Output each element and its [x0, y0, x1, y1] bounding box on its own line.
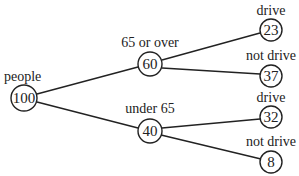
node-value-37: 37	[264, 68, 280, 84]
node-under-65-drive: drive 32	[257, 90, 286, 128]
node-label-under-65: under 65	[125, 101, 174, 116]
edge-65-or-over-not-drive	[162, 68, 260, 74]
tree-diagram: people 100 65 or over 60 under 65 40 dri…	[0, 0, 299, 176]
node-root: people 100	[4, 69, 41, 111]
edge-people-65-or-over	[37, 67, 138, 94]
edge-under-65-drive	[162, 119, 260, 128]
node-label-65-or-over: 65 or over	[121, 35, 179, 50]
node-65-or-over-not-drive: not drive 37	[246, 48, 296, 87]
node-label-people: people	[4, 69, 41, 84]
node-value-100: 100	[13, 90, 36, 106]
node-value-8: 8	[267, 154, 275, 170]
node-value-32: 32	[264, 109, 279, 125]
node-value-40: 40	[143, 123, 158, 139]
node-under-65-not-drive: not drive 8	[246, 134, 296, 173]
node-65-or-over-drive: drive 23	[257, 3, 286, 41]
node-label-drive: drive	[257, 3, 286, 18]
node-label-not-drive: not drive	[246, 134, 296, 149]
node-value-23: 23	[264, 22, 279, 38]
node-label-drive: drive	[257, 90, 286, 105]
edge-people-under-65	[37, 102, 138, 128]
node-value-60: 60	[143, 56, 158, 72]
node-label-not-drive: not drive	[246, 48, 296, 63]
